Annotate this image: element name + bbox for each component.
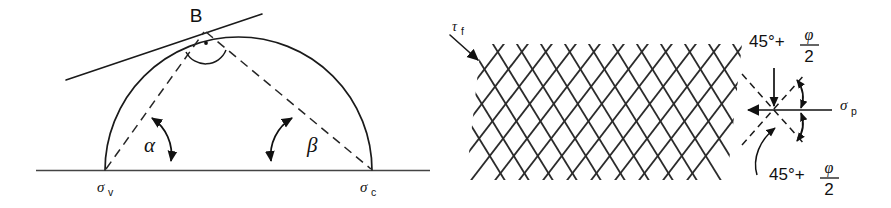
tangent-line — [66, 14, 262, 80]
figure-root: B α β σ v σ c τ f — [0, 0, 891, 208]
sigma-v-symbol: σ — [97, 179, 105, 195]
angle-label-top-denominator: 2 — [804, 47, 813, 66]
beta-angle-arrow — [271, 118, 292, 161]
angle-label-top-base: 45°+ — [749, 32, 785, 51]
right-angle-arc — [186, 50, 226, 64]
apex-label-B: B — [190, 5, 203, 26]
sigma-c-subscript: c — [371, 186, 376, 198]
sigma-p-subscript: p — [851, 105, 857, 117]
angle-arc-upper — [797, 80, 803, 108]
angle-label-bottom: 45°+ φ 2 — [769, 159, 839, 199]
figure-canvas: B α β σ v σ c τ f — [0, 0, 891, 208]
left-panel-group: B α β σ v σ c — [36, 5, 430, 198]
sigma-p-label: σ p — [840, 97, 857, 117]
angle-label-top-numerator: φ — [805, 26, 814, 44]
sigma-p-symbol: σ — [840, 97, 848, 113]
angle-label-top: 45°+ φ 2 — [749, 26, 819, 66]
angle-label-bottom-numerator: φ — [825, 159, 834, 177]
sigma-v-subscript: v — [108, 186, 114, 198]
sigma-c-label: σ c — [360, 179, 376, 198]
stress-element: σ p — [742, 68, 857, 175]
alpha-label: α — [144, 133, 156, 157]
angle-label-bottom-base: 45°+ — [769, 165, 805, 184]
dashed-chord-right — [206, 32, 371, 169]
angle-label-bottom-denominator: 2 — [824, 180, 833, 199]
beta-label: β — [306, 133, 318, 157]
tau-f-arrow — [450, 35, 478, 60]
sigma-v-label: σ v — [97, 179, 114, 198]
right-panel-group: τ f — [380, 10, 857, 205]
sigma-c-symbol: σ — [360, 179, 368, 195]
tau-f-subscript: f — [461, 25, 464, 37]
tau-f-label: τ f — [452, 19, 464, 37]
tau-f-symbol: τ — [452, 19, 458, 34]
right-angle-dot — [204, 41, 208, 45]
